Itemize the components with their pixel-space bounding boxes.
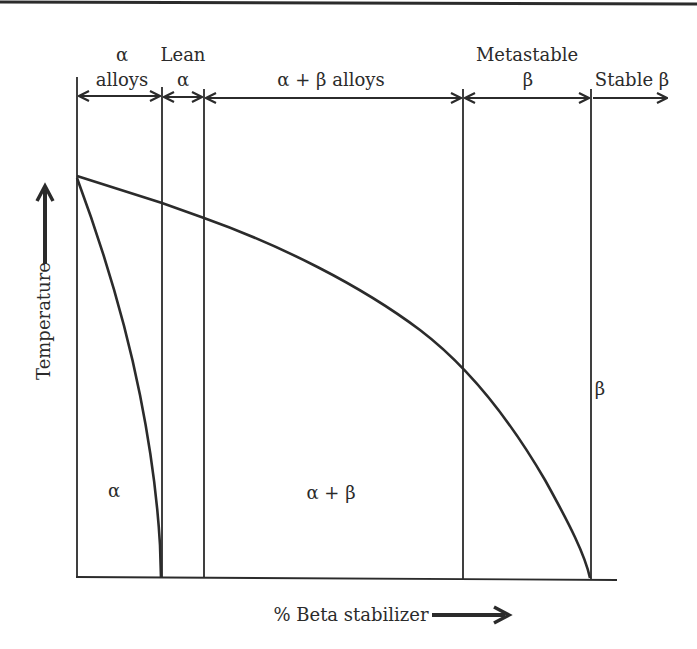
top-category-labels: α alloys Lean α α + β alloys Metastable … xyxy=(96,44,669,90)
beta-transus-curve xyxy=(77,176,590,578)
alpha-solvus-curve xyxy=(77,178,161,578)
top-border-rule xyxy=(0,2,697,4)
label-metastable-beta-line2: β xyxy=(523,69,533,90)
x-axis-label: % Beta stabilizer xyxy=(273,604,429,625)
label-lean-alpha-line1: Lean xyxy=(161,44,206,65)
label-stable-beta: Stable β xyxy=(595,69,669,90)
label-alpha-beta-alloys: α + β alloys xyxy=(277,69,384,90)
label-alpha-alloys-line1: α xyxy=(116,44,128,65)
category-dimension-arrows xyxy=(79,96,667,98)
x-axis-arrow-icon xyxy=(432,607,509,623)
y-axis-arrow-icon xyxy=(37,186,53,264)
region-label-beta: β xyxy=(595,378,605,399)
x-axis-line xyxy=(76,577,617,580)
region-label-alpha: α xyxy=(108,480,120,501)
label-metastable-beta-line1: Metastable xyxy=(476,44,578,65)
y-axis-label: Temperature xyxy=(33,262,54,380)
label-lean-alpha-line2: α xyxy=(177,69,189,90)
phase-diagram: α alloys Lean α α + β alloys Metastable … xyxy=(0,0,697,649)
region-label-alpha-beta: α + β xyxy=(306,482,355,503)
label-alpha-alloys-line2: alloys xyxy=(96,69,149,90)
